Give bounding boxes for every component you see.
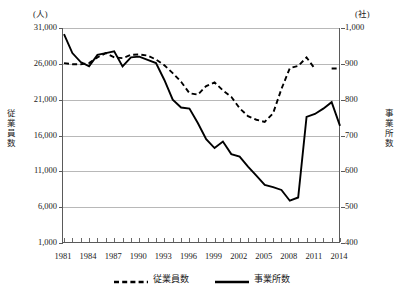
chart-legend: 従業員数事業所数: [0, 272, 403, 285]
right-axis-tick-label: 500: [345, 202, 358, 211]
left-axis-tick-label: 21,000: [34, 95, 57, 104]
legend-item[interactable]: 事業所数: [215, 272, 290, 285]
right-axis-tick-label: 400: [345, 238, 358, 247]
left-axis-tick-label: 31,000: [34, 23, 57, 32]
right-axis-tick-mark: [341, 136, 345, 137]
right-axis-tick-mark: [341, 243, 345, 244]
right-axis-tick-label: 600: [345, 166, 358, 175]
x-axis-tick-label: 2014: [324, 251, 354, 261]
right-axis-tick-mark: [341, 64, 345, 65]
left-axis-tick-mark: [59, 243, 63, 244]
series-line-employees: [64, 53, 340, 122]
legend-label: 事業所数: [254, 272, 290, 285]
series-lines: [63, 28, 341, 243]
right-axis-unit-label: (社): [355, 7, 370, 19]
chart-container: (人) (社) 従業員数 事業所数 1,0006,00011,00016,000…: [0, 0, 403, 294]
right-axis-tick-mark: [341, 100, 345, 101]
left-axis-tick-label: 11,000: [34, 166, 57, 175]
right-axis-tick-label: 800: [345, 95, 358, 104]
left-axis-title: 従業員数: [6, 108, 17, 148]
plot-area: [62, 28, 340, 243]
right-axis-title: 事業所数: [384, 108, 395, 148]
legend-label: 従業員数: [153, 272, 189, 285]
right-axis-tick-label: 700: [345, 131, 358, 140]
series-line-establishments: [64, 34, 340, 201]
right-axis-tick-mark: [341, 171, 345, 172]
right-axis-tick-mark: [341, 28, 345, 29]
left-axis-tick-label: 6,000: [38, 202, 57, 211]
left-axis-tick-label: 1,000: [38, 238, 57, 247]
legend-item[interactable]: 従業員数: [114, 272, 189, 285]
right-axis-tick-label: 1,000: [345, 23, 364, 32]
left-axis-tick-label: 26,000: [34, 59, 57, 68]
left-axis-unit-label: (人): [33, 7, 48, 19]
right-axis-tick-label: 900: [345, 59, 358, 68]
left-axis-tick-label: 16,000: [34, 131, 57, 140]
right-axis-tick-mark: [341, 207, 345, 208]
